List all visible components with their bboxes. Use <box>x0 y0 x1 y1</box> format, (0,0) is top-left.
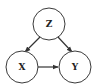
node-y-label: Y <box>71 62 79 72</box>
node-z: Z <box>33 8 65 40</box>
node-x: X <box>6 51 38 83</box>
edge-z-to-y <box>58 37 72 52</box>
node-z-label: Z <box>46 19 53 29</box>
node-x-label: X <box>19 62 26 72</box>
causal-diagram: Z X Y <box>0 0 98 84</box>
edge-z-to-x <box>25 37 40 52</box>
node-y: Y <box>59 51 91 83</box>
